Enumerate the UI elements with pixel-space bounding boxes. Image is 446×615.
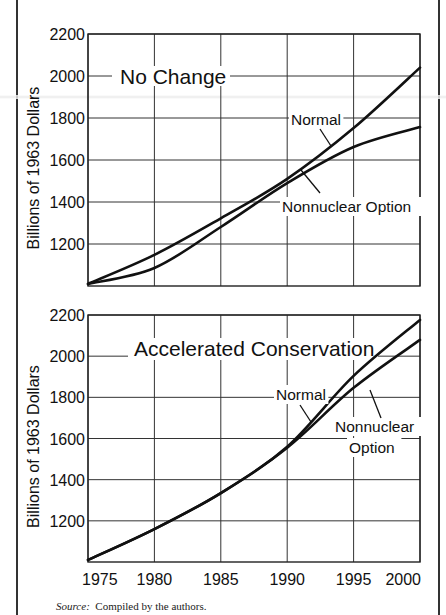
leader-line (301, 170, 320, 193)
y-tick-label: 1200 (49, 513, 85, 530)
chart-title: Accelerated Conservation (134, 337, 374, 360)
y-tick-label: 1400 (49, 472, 85, 489)
source-label: Source: (56, 600, 90, 612)
y-axis-label: Billions of 1963 Dollars (25, 365, 42, 528)
annotation-label: Nonnuclear Option (282, 198, 411, 215)
annotation-label: Normal (291, 111, 341, 128)
chart-no-change: No Change120014001600180020002200Billion… (25, 26, 427, 286)
annotation-label: Normal (276, 386, 326, 403)
y-tick-label: 2000 (49, 348, 85, 365)
y-tick-label: 2200 (49, 26, 85, 43)
y-tick-label: 2000 (49, 68, 85, 85)
figure-charts: No Change120014001600180020002200Billion… (0, 0, 446, 615)
x-tick-label: 2000 (385, 571, 421, 588)
y-tick-label: 2200 (49, 307, 85, 324)
x-tick-label: 1985 (203, 571, 239, 588)
x-tick-label: 1980 (137, 571, 173, 588)
y-tick-label: 1600 (49, 152, 85, 169)
chart-title: No Change (120, 65, 226, 88)
annotation-label: Nonnuclear (335, 418, 414, 435)
y-tick-label: 1600 (49, 431, 85, 448)
y-axis-label: Billions of 1963 Dollars (25, 87, 42, 250)
chart-accelerated-conservation: Accelerated Conservation1200140016001800… (25, 307, 421, 588)
y-tick-label: 1800 (49, 110, 85, 127)
y-tick-label: 1400 (49, 194, 85, 211)
source-text: Compiled by the authors. (95, 600, 206, 612)
leader-line (370, 390, 381, 418)
series-line-normal (88, 68, 420, 284)
leader-line (300, 405, 311, 422)
y-tick-label: 1800 (49, 389, 85, 406)
x-tick-label: 1975 (82, 571, 118, 588)
x-tick-label: 1995 (336, 571, 372, 588)
source-note: Source: Compiled by the authors. (56, 600, 207, 612)
y-tick-label: 1200 (49, 236, 85, 253)
x-tick-label: 1990 (269, 571, 305, 588)
leader-line (320, 129, 331, 146)
annotation-label: Option (349, 439, 395, 456)
